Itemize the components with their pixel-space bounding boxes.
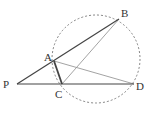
segment-ad (54, 61, 134, 84)
segment-cb (62, 19, 119, 84)
circumcircle (52, 15, 140, 103)
segment-pb (17, 19, 119, 84)
label-a: A (44, 51, 52, 63)
geometry-diagram: P A B C D (0, 0, 155, 114)
label-b: B (121, 7, 128, 19)
label-p: P (3, 78, 9, 90)
segment-ac (54, 61, 62, 84)
label-d: D (136, 80, 144, 92)
label-c: C (55, 88, 62, 100)
